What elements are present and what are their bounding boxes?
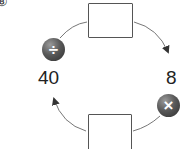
divide-icon: ÷ bbox=[49, 41, 58, 58]
arrow-bottom-to-left bbox=[54, 99, 86, 131]
answer-box-bottom[interactable] bbox=[88, 114, 132, 149]
arc-right-to-bottom bbox=[133, 116, 160, 131]
divide-operator: ÷ bbox=[42, 38, 65, 61]
arrow-top-to-right bbox=[134, 22, 168, 52]
middle-value: 8 bbox=[166, 68, 177, 87]
arc-left-to-top bbox=[60, 22, 87, 38]
multiply-operator: × bbox=[157, 94, 180, 117]
start-value: 40 bbox=[38, 68, 59, 87]
multiply-icon: × bbox=[164, 97, 174, 114]
answer-box-top[interactable] bbox=[88, 3, 133, 38]
